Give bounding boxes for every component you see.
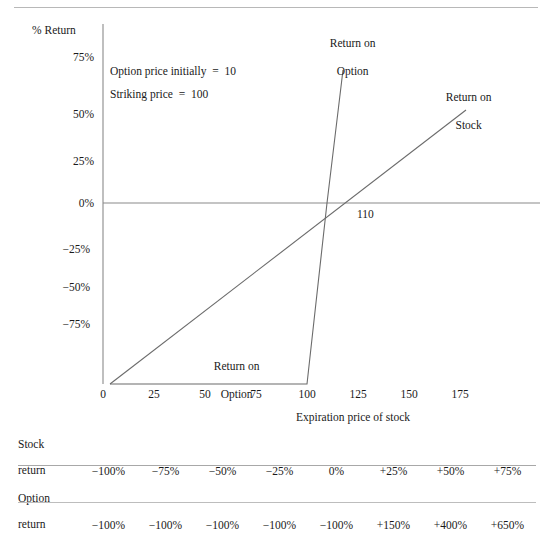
x-tick-175: 175 bbox=[440, 388, 480, 401]
return-on-stock-line1: Return on bbox=[446, 91, 492, 103]
return-on-option-upper-label: Return on Option bbox=[296, 22, 392, 92]
option-return-cell-2: −100% bbox=[194, 479, 251, 533]
x-tick-100: 100 bbox=[287, 388, 327, 401]
return-on-option-upper-line2: Option bbox=[337, 65, 369, 77]
return-on-option-upper-line1: Return on bbox=[330, 37, 376, 49]
chart-area: % Return 75% 50% 25% 0% −25% −50% −75% 0… bbox=[0, 0, 552, 400]
return-on-option-lower-line2: Option bbox=[221, 388, 253, 400]
return-on-stock-line2: Stock bbox=[456, 119, 482, 131]
table-middle-divider bbox=[18, 465, 536, 466]
stock-return-cell-4: 0% bbox=[308, 425, 365, 479]
y-tick-25: 25% bbox=[48, 155, 94, 168]
row-label-stock-line1: Stock bbox=[18, 438, 44, 450]
return-on-option-line bbox=[110, 70, 343, 384]
breakeven-label: 110 bbox=[357, 208, 374, 221]
option-return-cell-0: −100% bbox=[80, 479, 137, 533]
option-price-note: Option price initially = 10 bbox=[110, 65, 236, 78]
return-on-stock-line bbox=[110, 110, 466, 384]
option-return-cell-5: +150% bbox=[365, 479, 422, 533]
returns-table: Stock return −100% −75% −50% −25% 0% +25… bbox=[18, 425, 536, 533]
x-tick-25: 25 bbox=[134, 388, 174, 401]
return-on-stock-label: Return on Stock bbox=[412, 76, 508, 146]
x-tick-125: 125 bbox=[338, 388, 378, 401]
stock-return-cell-2: −50% bbox=[194, 425, 251, 479]
stock-return-cell-0: −100% bbox=[80, 425, 137, 479]
x-tick-150: 150 bbox=[389, 388, 429, 401]
y-tick-neg75: −75% bbox=[44, 318, 90, 331]
y-tick-neg50: −50% bbox=[44, 281, 90, 294]
y-tick-75: 75% bbox=[48, 51, 94, 64]
stock-return-cell-1: −75% bbox=[137, 425, 194, 479]
option-return-cell-4: −100% bbox=[308, 479, 365, 533]
row-label-option-line2: return bbox=[18, 518, 45, 530]
table-bottom-divider bbox=[18, 502, 536, 503]
option-return-cell-3: −100% bbox=[251, 479, 308, 533]
row-label-option-return: Option return bbox=[18, 479, 80, 533]
option-return-cell-7: +650% bbox=[479, 479, 536, 533]
y-tick-0: 0% bbox=[48, 197, 94, 210]
stock-return-cell-3: −25% bbox=[251, 425, 308, 479]
table-row: Stock return −100% −75% −50% −25% 0% +25… bbox=[18, 425, 536, 479]
stock-return-cell-6: +50% bbox=[422, 425, 479, 479]
returns-table-grid: Stock return −100% −75% −50% −25% 0% +25… bbox=[18, 425, 536, 533]
y-axis-title: % Return bbox=[32, 24, 76, 37]
table-row: Option return −100% −100% −100% −100% −1… bbox=[18, 479, 536, 533]
option-return-cell-6: +400% bbox=[422, 479, 479, 533]
striking-price-note: Striking price = 100 bbox=[110, 88, 208, 101]
stock-return-cell-7: +75% bbox=[479, 425, 536, 479]
stock-return-cell-5: +25% bbox=[365, 425, 422, 479]
return-on-option-lower-line1: Return on bbox=[214, 360, 260, 372]
x-tick-0: 0 bbox=[83, 388, 123, 401]
y-tick-50: 50% bbox=[48, 108, 94, 121]
option-return-cell-1: −100% bbox=[137, 479, 194, 533]
row-label-stock-return: Stock return bbox=[18, 425, 80, 479]
return-on-option-lower-label: Return on Option bbox=[180, 345, 276, 415]
y-tick-neg25: −25% bbox=[44, 243, 90, 256]
table-caption: Expiration price of stock bbox=[296, 411, 496, 423]
